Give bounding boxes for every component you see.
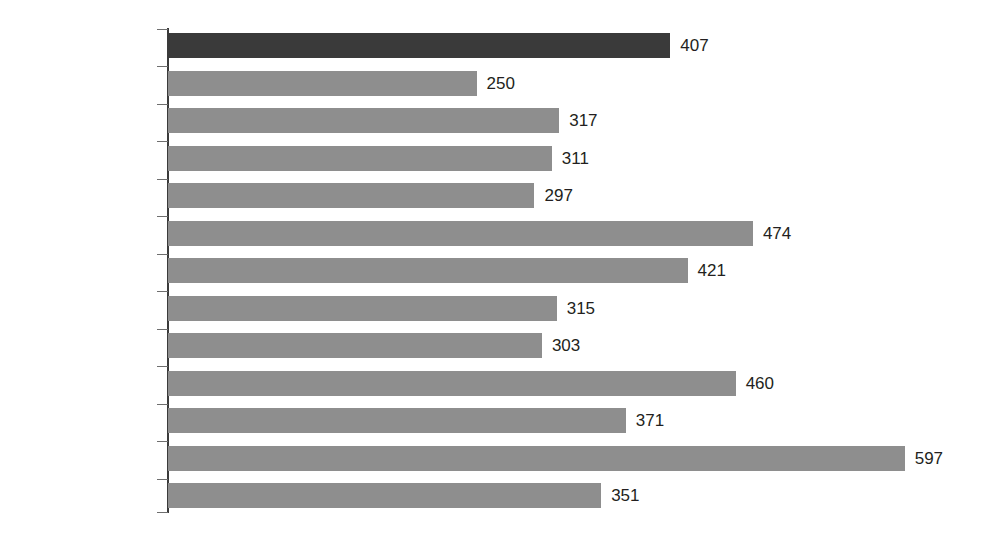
bar[interactable]: [168, 408, 626, 433]
axis-tick: [157, 366, 168, 367]
axis-tick: [157, 104, 168, 105]
bar-value-label: 317: [569, 108, 597, 133]
axis-tick: [157, 329, 168, 330]
bar-value-label: 297: [544, 183, 572, 208]
bar[interactable]: [168, 146, 552, 171]
bar[interactable]: [168, 333, 542, 358]
axis-tick: [157, 179, 168, 180]
bar-value-label: 250: [487, 71, 515, 96]
bar-value-label: 460: [746, 371, 774, 396]
bar[interactable]: [168, 446, 905, 471]
bar[interactable]: [168, 108, 559, 133]
bar-chart: CAN 407 NL 250 PE 317 NS 311 NB 297 QC 4…: [0, 0, 998, 547]
axis-tick: [157, 441, 168, 442]
axis-tick: [157, 29, 168, 30]
bar-value-label: 421: [698, 258, 726, 283]
bar-value-label: 315: [567, 296, 595, 321]
axis-tick: [157, 216, 168, 217]
bar[interactable]: [168, 221, 753, 246]
bar-value-label: 351: [611, 483, 639, 508]
bar[interactable]: [168, 371, 736, 396]
bar-value-label: 407: [680, 33, 708, 58]
bar-value-label: 597: [915, 446, 943, 471]
bar[interactable]: [168, 296, 557, 321]
axis-tick: [157, 141, 168, 142]
axis-tick: [157, 404, 168, 405]
axis-tick: [157, 291, 168, 292]
bar-value-label: 303: [552, 333, 580, 358]
bar[interactable]: [168, 183, 534, 208]
bar-value-label: 474: [763, 221, 791, 246]
bar-value-label: 311: [562, 146, 589, 171]
axis-tick: [157, 254, 168, 255]
axis-tick: [157, 66, 168, 67]
axis-tick: [157, 479, 168, 480]
bar[interactable]: [168, 258, 688, 283]
bar[interactable]: [168, 33, 670, 58]
bar-value-label: 371: [636, 408, 664, 433]
bar[interactable]: [168, 483, 601, 508]
bar[interactable]: [168, 71, 477, 96]
axis-tick: [157, 512, 168, 513]
